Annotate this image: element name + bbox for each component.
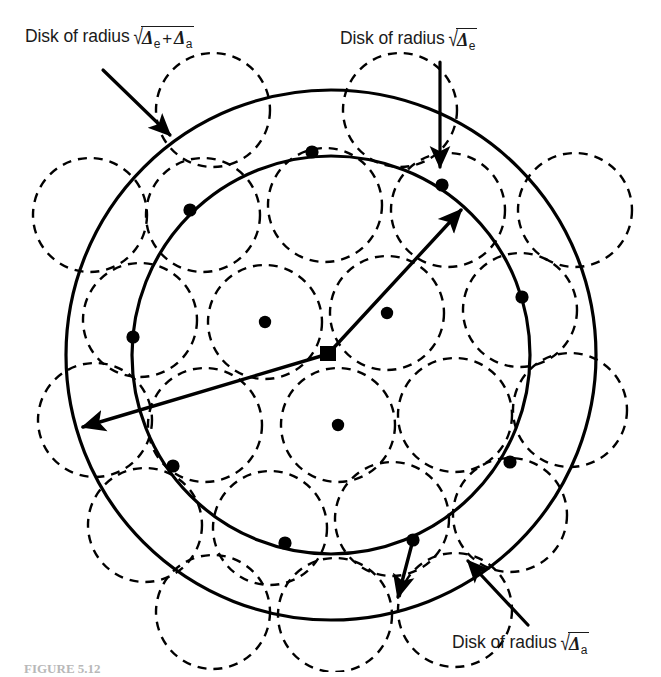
boundary-dot-7 — [515, 290, 528, 303]
radical-icon: √ — [560, 631, 569, 656]
radical-icon: √ — [448, 27, 457, 52]
center-point-marker — [320, 346, 336, 361]
figure-caption: FIGURE 5.12 — [24, 661, 101, 677]
label-dashed-radicand: Δa — [568, 632, 589, 657]
label-dashed-radical-group: √Δa — [560, 632, 590, 657]
lattice-center-dot-2 — [332, 419, 344, 431]
label-dashed-text: Disk of radius — [452, 632, 557, 652]
boundary-dot-0 — [305, 145, 318, 158]
boundary-dot-8 — [435, 178, 448, 191]
boundary-dot-3 — [166, 459, 179, 472]
label-inner-disk: Disk of radius√Δe — [340, 28, 477, 53]
dashed-disk-16 — [156, 53, 270, 167]
dashed-circle-group — [33, 53, 632, 672]
lattice-center-dot-1 — [381, 307, 393, 319]
dashed-disk-21 — [33, 158, 147, 272]
label-dashed-disk: Disk of radius√Δa — [452, 632, 589, 657]
label-outer-radical-group: √Δe+Δa — [133, 26, 195, 51]
delta-symbol: Δ — [142, 28, 153, 48]
boundary-dot-6 — [503, 455, 516, 468]
boundary-dot-4 — [278, 536, 291, 549]
outer-label-leader — [103, 70, 170, 135]
plus-symbol: + — [160, 29, 174, 48]
delta-subscript-a: a — [186, 37, 193, 51]
delta-symbol-2: Δ — [174, 28, 185, 48]
label-outer-radicand: Δe+Δa — [141, 26, 194, 51]
dashed-disk-11 — [88, 468, 202, 582]
boundary-dot-2 — [126, 330, 139, 343]
dashed-disk-22 — [156, 555, 270, 669]
dashed-disk-6 — [398, 358, 512, 472]
label-inner-radical-group: √Δe — [448, 28, 478, 53]
label-outer-text: Disk of radius — [25, 26, 130, 46]
delta-symbol: Δ — [569, 634, 580, 654]
delta-subscript-e: e — [469, 39, 476, 53]
lattice-center-dot-0 — [259, 316, 271, 328]
boundary-dot-1 — [183, 203, 196, 216]
boundary-dot-5 — [406, 533, 419, 546]
dashed-disk-8 — [268, 148, 382, 262]
dashed-disk-13 — [453, 458, 567, 572]
label-inner-text: Disk of radius — [340, 28, 445, 48]
label-inner-radicand: Δe — [456, 28, 477, 53]
delta-symbol: Δ — [457, 30, 468, 50]
delta-subscript-a: a — [581, 643, 588, 657]
radical-icon: √ — [133, 25, 142, 50]
dashed-disk-10 — [83, 263, 197, 377]
dashed-radius-arrow — [398, 540, 413, 597]
dashed-disk-14 — [463, 253, 577, 367]
label-outer-disk: Disk of radius√Δe+Δa — [25, 26, 194, 51]
